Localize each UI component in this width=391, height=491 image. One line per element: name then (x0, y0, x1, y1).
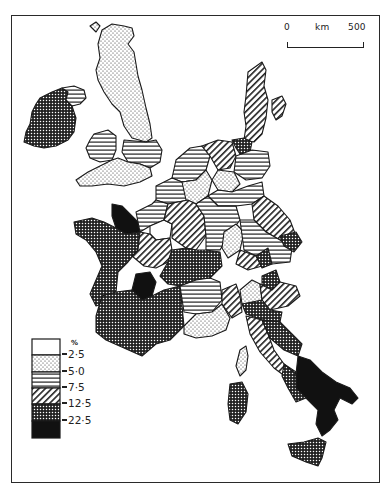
legend-swatch-horizontal (32, 372, 60, 388)
legend-swatch-blank (32, 339, 60, 355)
region-south-italy (296, 356, 358, 436)
legend-swatch-diagonal (32, 388, 60, 404)
region-sicily (288, 438, 326, 466)
legend-swatch-dots (32, 355, 60, 372)
legend-swatch-crosshatch (32, 404, 60, 421)
region-sardinia (228, 382, 248, 424)
region-lower-saxony (234, 150, 270, 180)
legend-break-1: 2·5 (62, 349, 85, 360)
scale-bar-line (287, 42, 364, 48)
legend-swatch-black (32, 421, 60, 438)
region-danish-islands (272, 96, 286, 120)
region-hebrides (90, 22, 100, 32)
legend-break-4: 12·5 (62, 398, 91, 409)
region-corsica (236, 346, 248, 376)
region-denmark (244, 62, 268, 142)
legend-break-2: 5·0 (62, 366, 85, 377)
legend-break-5: 22·5 (62, 415, 91, 426)
legend-break-3: 7·5 (62, 382, 85, 393)
region-scotland-north-england (96, 24, 152, 142)
scale-bar: 0 km 500 (282, 22, 366, 52)
scale-start-label: 0 (284, 22, 290, 32)
legend-swatches (32, 339, 60, 438)
scale-end-label: 500 (348, 22, 366, 32)
scale-unit-label: km (315, 22, 329, 32)
choropleth-map (0, 0, 391, 491)
region-wales (86, 130, 116, 162)
legend-unit: % (71, 339, 78, 347)
